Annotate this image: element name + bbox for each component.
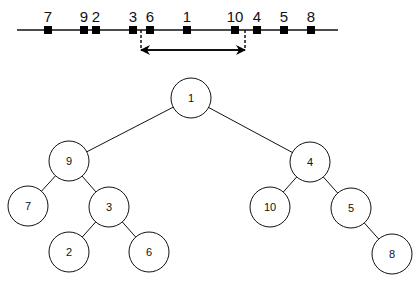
point-label: 7 [44, 8, 52, 25]
point-label: 8 [307, 8, 315, 25]
point-marker [307, 26, 315, 34]
point-marker [129, 26, 137, 34]
point-label: 10 [227, 8, 244, 25]
point-label: 9 [80, 8, 88, 25]
point-label: 1 [183, 8, 191, 25]
point-label: 2 [92, 8, 100, 25]
point-label: 5 [280, 8, 288, 25]
point-marker [80, 26, 88, 34]
tree-edge [41, 176, 55, 191]
tree-node-label: 2 [66, 246, 72, 258]
tree-edge [283, 177, 296, 192]
tree: 19473105268 [8, 78, 412, 274]
number-line: 79236110458 [17, 8, 338, 50]
point-label: 3 [129, 8, 137, 25]
point-marker [44, 26, 52, 34]
tree-edge [87, 107, 173, 152]
point-marker [183, 26, 191, 34]
tree-node-label: 3 [106, 201, 112, 213]
tree-node-label: 9 [66, 155, 72, 167]
tree-edge [82, 176, 96, 192]
point-marker [253, 26, 261, 34]
diagram: 79236110458 19473105268 [0, 0, 419, 288]
point-marker [146, 26, 154, 34]
tree-edge [323, 177, 337, 193]
tree-edge [82, 222, 95, 237]
tree-node-label: 7 [25, 200, 31, 212]
point-marker [280, 26, 288, 34]
tree-node-label: 10 [264, 201, 276, 213]
tree-node-label: 1 [188, 92, 194, 104]
point-marker [231, 26, 239, 34]
tree-node-label: 4 [307, 156, 313, 168]
tree-edge [122, 222, 135, 237]
tree-node-label: 8 [389, 248, 395, 260]
tree-edge [364, 223, 378, 239]
tree-node-label: 5 [348, 202, 354, 214]
point-marker [92, 26, 100, 34]
point-label: 6 [146, 8, 154, 25]
point-label: 4 [253, 8, 261, 25]
tree-node-label: 6 [146, 246, 152, 258]
tree-edge [209, 107, 293, 152]
